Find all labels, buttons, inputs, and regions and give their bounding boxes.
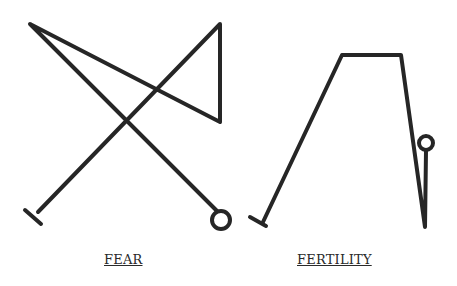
sigil-diagram (0, 0, 457, 286)
fear-sigil (25, 24, 230, 229)
fertility-end-circle-icon (419, 136, 433, 150)
fertility-label: FERTILITY (297, 252, 372, 267)
fertility-sigil-path (263, 55, 426, 227)
fertility-sigil (250, 55, 433, 227)
fear-label: FEAR (104, 252, 143, 267)
fear-end-circle-icon (212, 211, 230, 229)
fear-sigil-path (30, 24, 220, 214)
